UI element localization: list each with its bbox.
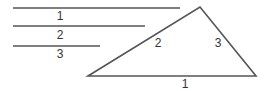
triangle (88, 7, 256, 76)
segment-1-label: 1 (57, 9, 64, 23)
triangle-side-1-label: 1 (182, 77, 189, 91)
triangle-side-2-label: 2 (155, 36, 162, 50)
segment-3-label: 3 (57, 47, 64, 61)
triangle-side-3-label: 3 (215, 36, 222, 50)
diagram-canvas: 1 2 3 1 2 3 (0, 0, 269, 91)
triangle-group: 1 2 3 (88, 7, 256, 91)
segment-2-label: 2 (57, 28, 64, 42)
